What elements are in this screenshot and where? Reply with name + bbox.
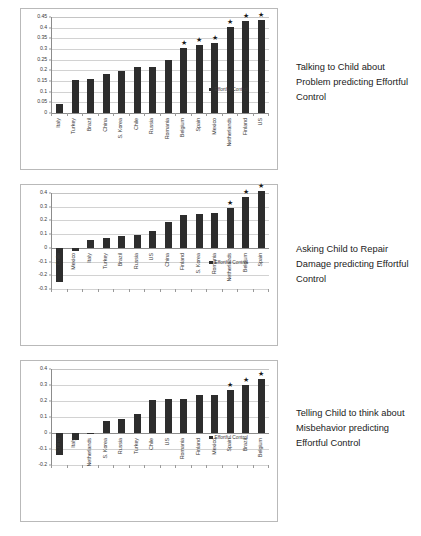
x-axis-tick-label: Romania (165, 118, 170, 139)
bar[interactable] (211, 43, 218, 113)
y-axis-tick-label: -0.1 (38, 259, 47, 264)
legend-label: Effortful Control (215, 87, 248, 92)
bar[interactable] (149, 400, 156, 433)
significance-star-icon: ★ (258, 182, 264, 189)
x-axis-tick-label: Brazil (87, 118, 92, 131)
x-axis-label-slot: Romania (176, 437, 192, 481)
significance-star-icon: ★ (243, 376, 249, 383)
bar-slot[interactable]: ★ (238, 17, 254, 113)
chart-legend: Effortful Control (209, 260, 248, 265)
x-axis-tick-label: Russia (150, 118, 155, 134)
x-axis-tick-label: Mexico (212, 438, 217, 455)
bar[interactable] (165, 60, 172, 113)
x-axis-tick-mark (98, 113, 114, 116)
x-axis-label-slot: China (98, 117, 114, 161)
bar[interactable] (103, 421, 110, 433)
bar[interactable] (242, 21, 249, 113)
bar[interactable] (87, 433, 94, 434)
x-axis-ticks (51, 113, 269, 116)
significance-star-icon: ★ (227, 18, 233, 25)
bar[interactable] (149, 67, 156, 113)
bar[interactable] (165, 399, 172, 433)
x-axis-label-slot: China (160, 252, 176, 296)
bar[interactable] (258, 191, 265, 248)
bar[interactable] (118, 71, 125, 113)
y-axis: 0.40.30.20.10-0.1-0.2-0.3 (27, 193, 49, 289)
bar-slot[interactable] (83, 17, 99, 113)
y-axis-tick-label: 0 (44, 430, 47, 435)
bar[interactable] (227, 390, 234, 433)
bar[interactable] (134, 235, 141, 248)
x-axis-tick-label: China (56, 438, 61, 452)
bar[interactable] (165, 222, 172, 248)
bar[interactable] (149, 231, 156, 247)
bar[interactable] (118, 419, 125, 433)
x-axis-label-slot: Brazil (238, 437, 254, 481)
bar[interactable] (227, 27, 234, 113)
x-axis-tick-mark (191, 113, 207, 116)
x-axis-label-slot: Spain (222, 437, 238, 481)
bar[interactable] (103, 74, 110, 113)
bar[interactable] (196, 214, 203, 248)
bar[interactable] (56, 104, 63, 113)
y-axis-tick-label: 0.4 (40, 25, 47, 30)
bar[interactable] (258, 379, 265, 433)
x-axis-label-slot: Russia (129, 252, 145, 296)
bar[interactable] (242, 197, 249, 247)
bar-slot[interactable] (99, 17, 115, 113)
bar[interactable] (196, 45, 203, 113)
x-axis-label-slot: Belgium (176, 117, 192, 161)
x-axis-label-slot: US (144, 252, 160, 296)
x-axis-tick-label: Finland (181, 253, 186, 270)
bar[interactable] (134, 67, 141, 113)
y-axis-tick-label: 0.2 (40, 398, 47, 403)
x-axis-tick-mark (51, 113, 67, 116)
y-axis-tick-label: 0 (44, 110, 47, 115)
bar-slot[interactable] (114, 17, 130, 113)
x-axis-label-slot: Turkey (67, 117, 83, 161)
bar[interactable] (118, 236, 125, 247)
significance-star-icon: ★ (212, 34, 218, 41)
bar[interactable] (242, 385, 249, 433)
bar-slot[interactable] (68, 17, 84, 113)
bar[interactable] (72, 248, 79, 251)
bar-slot[interactable]: ★ (176, 17, 192, 113)
bar-slot[interactable]: ★ (192, 17, 208, 113)
bar[interactable] (180, 48, 187, 113)
bar-slot[interactable] (145, 17, 161, 113)
plot-wrapper: 0.40.30.20.10-0.1-0.2-0.3★★★ChileMexicoI… (27, 193, 271, 341)
bar[interactable] (258, 20, 265, 113)
x-axis-label-slot: Mexico (207, 437, 223, 481)
bar[interactable] (180, 399, 187, 433)
bar[interactable] (134, 414, 141, 433)
y-axis-tick-label: 0 (44, 245, 47, 250)
bar[interactable] (87, 79, 94, 113)
x-axis-category-labels: ChileMexicoItalyTurkeyBrazilRussiaUSChin… (51, 252, 269, 296)
x-axis-label-slot: Chile (51, 252, 67, 296)
x-axis-tick-label: S. Korea (118, 118, 123, 139)
y-axis-tick-label: -0.2 (38, 462, 47, 467)
bar-slot[interactable] (161, 17, 177, 113)
y-axis-tick-label: 0.45 (37, 14, 47, 19)
bar-slot[interactable] (130, 17, 146, 113)
x-axis-tick-label: Finland (243, 118, 248, 135)
bar-slot[interactable]: ★ (223, 17, 239, 113)
y-axis-tick-label: 0.1 (40, 89, 47, 94)
bar[interactable] (180, 215, 187, 248)
x-axis-tick-label: Russia (134, 253, 139, 269)
bar[interactable] (72, 80, 79, 113)
bar-slot[interactable]: ★ (254, 17, 270, 113)
bar[interactable] (227, 208, 234, 248)
significance-star-icon: ★ (196, 36, 202, 43)
bar[interactable] (211, 213, 218, 248)
bar[interactable] (211, 395, 218, 433)
bar-slot[interactable]: ★ (207, 17, 223, 113)
chart-legend: Effortful Control (209, 435, 248, 440)
x-axis-tick-mark (222, 113, 238, 116)
bar[interactable] (196, 395, 203, 433)
bar[interactable] (103, 238, 110, 248)
bar[interactable] (87, 240, 94, 248)
bar-slot[interactable] (52, 17, 68, 113)
x-axis-label-slot: Italy (67, 437, 83, 481)
y-axis-tick-label: -0.2 (38, 273, 47, 278)
